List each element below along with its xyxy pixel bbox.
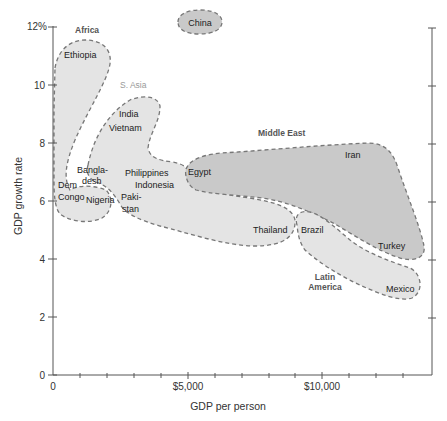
label-bangladesh-1: Bangla- — [77, 165, 108, 175]
x-tick-labels: 0 $5,000 $10,000 — [50, 381, 340, 392]
region-shapes — [54, 10, 424, 299]
label-china: China — [188, 18, 212, 28]
scatter-chart: 0 2 4 6 8 10 12% 0 $5,000 $10,000 GDP pe… — [0, 0, 447, 421]
label-iran: Iran — [345, 150, 361, 160]
label-brazil: Brazil — [301, 225, 324, 235]
label-philippines: Philippines — [125, 168, 169, 178]
y-tick-labels: 0 2 4 6 8 10 12% — [27, 21, 47, 381]
label-thailand: Thailand — [253, 225, 288, 235]
label-turkey: Turkey — [378, 241, 406, 251]
y-tick-6: 6 — [39, 196, 45, 207]
y-tick-0: 0 — [39, 370, 45, 381]
x-axis-title: GDP per person — [190, 400, 266, 412]
region-label-middle-east: Middle East — [258, 128, 305, 138]
label-mexico: Mexico — [386, 284, 415, 294]
y-tick-4: 4 — [39, 254, 45, 265]
region-label-latin: Latin — [315, 272, 335, 282]
region-label-africa: Africa — [75, 25, 99, 35]
label-pakistan-2: stan — [122, 204, 139, 214]
x-tick-0: 0 — [50, 381, 56, 392]
x-tick-10000: $10,000 — [304, 381, 341, 392]
label-egypt: Egypt — [188, 167, 212, 177]
label-pakistan-1: Paki- — [121, 192, 142, 202]
y-axis-title: GDP growth rate — [12, 157, 24, 235]
region-label-s-asia: S. Asia — [120, 80, 147, 90]
label-india: India — [119, 109, 139, 119]
region-label-america: America — [308, 282, 342, 292]
label-nigeria: Nigeria — [86, 195, 115, 205]
y-tick-12: 12% — [27, 21, 47, 32]
label-bangladesh-2: desh — [82, 176, 102, 186]
label-congo: Congo — [58, 192, 85, 202]
label-ethiopia: Ethiopia — [64, 50, 97, 60]
y-tick-10: 10 — [34, 80, 46, 91]
y-tick-8: 8 — [39, 138, 45, 149]
label-indonesia: Indonesia — [135, 180, 174, 190]
label-vietnam: Vietnam — [109, 123, 142, 133]
label-dem: Dem — [58, 180, 77, 190]
x-tick-5000: $5,000 — [173, 381, 204, 392]
y-tick-2: 2 — [39, 312, 45, 323]
